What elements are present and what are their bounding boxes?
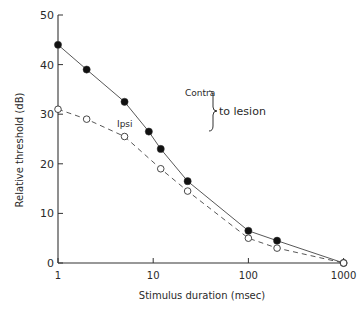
data-point-open — [83, 116, 90, 123]
data-point-open — [245, 235, 252, 242]
x-tick-label: 1 — [55, 270, 61, 281]
data-point-open — [340, 260, 347, 267]
data-point-open — [157, 165, 164, 172]
data-point-filled — [145, 128, 152, 135]
series-layer — [54, 41, 347, 266]
series-line — [58, 109, 344, 263]
annotation-ipsi: Ipsi — [117, 119, 133, 129]
data-point-open — [121, 133, 128, 140]
y-tick-label: 20 — [40, 158, 54, 171]
data-point-open — [274, 245, 281, 252]
y-tick-label: 0 — [47, 257, 54, 270]
annotations: ContraIpsito lesion — [117, 88, 266, 131]
y-tick-label: 30 — [40, 108, 54, 121]
y-tick-label: 10 — [40, 207, 54, 220]
data-point-open — [55, 106, 62, 113]
data-point-filled — [157, 145, 164, 152]
data-point-open — [184, 188, 191, 195]
threshold-chart: 010203040501101001000 ContraIpsito lesio… — [0, 0, 362, 311]
series-ipsi — [55, 106, 347, 266]
x-tick-label: 10 — [147, 270, 160, 281]
annotation-to-lesion: to lesion — [219, 105, 266, 118]
x-tick-label: 1000 — [331, 270, 356, 281]
data-point-filled — [83, 66, 90, 73]
y-tick-label: 50 — [40, 9, 54, 22]
x-tick-label: 100 — [239, 270, 258, 281]
data-point-filled — [121, 98, 128, 105]
data-point-filled — [273, 237, 280, 244]
annotation-contra: Contra — [185, 88, 215, 98]
series-contra — [54, 41, 347, 266]
data-point-filled — [54, 41, 61, 48]
series-line — [58, 45, 344, 263]
data-point-filled — [184, 178, 191, 185]
y-tick-label: 40 — [40, 59, 54, 72]
data-point-filled — [245, 227, 252, 234]
y-axis-label: Relative threshold (dB) — [14, 93, 25, 208]
axes: 010203040501101001000 — [40, 9, 356, 281]
x-axis-label: Stimulus duration (msec) — [139, 290, 265, 301]
